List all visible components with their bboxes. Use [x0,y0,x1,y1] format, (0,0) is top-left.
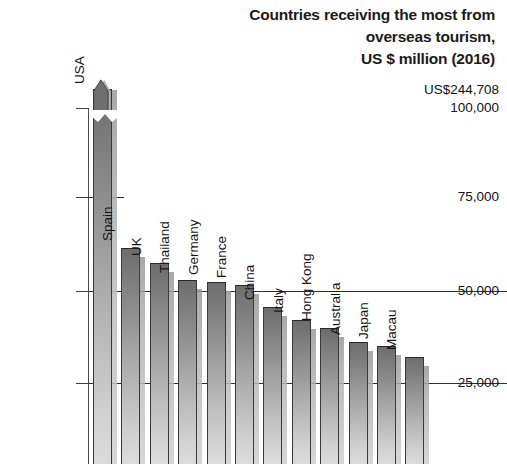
bar-body [377,346,396,464]
bar-label: Australia [328,282,343,335]
y-axis-line [88,108,89,464]
bar-label: UK [129,237,144,256]
bar-body [292,320,311,464]
bar-body [320,328,339,464]
usa-value-annotation: US$244,708 [415,82,499,97]
bar-body [121,248,140,464]
bar-body [349,342,368,464]
y-tick-label-75000: 75,000 [427,189,499,204]
y-tick-label-100000: 100,000 [427,100,499,115]
bar-body [207,282,226,464]
bar-label: USA [72,56,87,84]
bar-label: China [242,265,257,300]
bar-body [150,263,169,464]
bar-label: Spain [100,206,115,241]
bar-label: Japan [356,302,371,339]
bar-body [235,285,254,464]
bar-label: France [214,236,229,278]
y-tick-100000 [76,108,89,109]
y-tick-label-50000: 50,000 [427,283,499,298]
bar-body [263,307,282,464]
bar-body [178,280,197,464]
y-tick-25000 [76,383,89,384]
bar-label: Macau [384,309,399,350]
bar-body [405,357,424,464]
y-tick-75000 [76,197,89,198]
bar-body [93,89,112,464]
bar-label: Italy [271,288,286,313]
y-tick-50000 [76,291,89,292]
bar-label: Germany [186,219,201,275]
bar-label: Thailand [157,221,172,273]
bar-label: Hong Kong [299,253,314,321]
y-tick-label-25000: 25,000 [427,375,499,390]
